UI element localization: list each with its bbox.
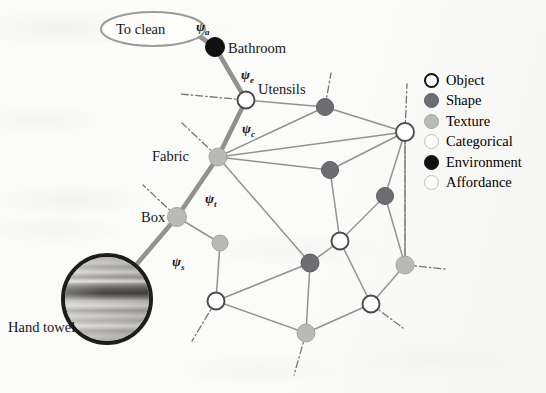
graph-node-s1: [317, 99, 334, 116]
texture-marker-icon: [424, 114, 439, 129]
graph-node-o1: [396, 123, 414, 141]
legend: ObjectShapeTextureCategoricalEnvironment…: [424, 70, 522, 193]
node-label-utensils: Utensils: [258, 82, 306, 97]
environment-marker-icon: [424, 155, 439, 170]
node-label-handtowel: Hand towel: [8, 320, 75, 335]
graph-node-o2: [332, 233, 349, 250]
graph-edge: [246, 100, 325, 107]
legend-label-object: Object: [446, 72, 485, 89]
legend-item-categorical: Categorical: [424, 132, 522, 153]
affordance-marker-icon: [424, 175, 439, 190]
path-label-psi_t: ψt: [205, 192, 217, 209]
graph-edge: [385, 196, 405, 265]
graph-node-bathroom: [206, 38, 225, 57]
legend-item-affordance: Affordance: [424, 173, 522, 194]
path-label-psi_e: ψe: [241, 68, 254, 85]
graph-node-utensils: [238, 92, 255, 109]
path-label-psi_a: ψa: [196, 20, 210, 37]
graph-node-box: [168, 208, 187, 227]
graph-node-t3: [297, 324, 315, 342]
dashdot-stub: [180, 94, 246, 100]
graph-edge: [340, 241, 371, 304]
graph-edge: [325, 107, 405, 132]
legend-label-affordance: Affordance: [446, 174, 512, 191]
graph-edge: [218, 157, 330, 170]
graph-edge: [218, 157, 310, 263]
graph-edge: [385, 132, 405, 196]
graph-node-o4: [363, 296, 380, 313]
node-label-bathroom: Bathroom: [228, 41, 286, 56]
legend-item-object: Object: [424, 70, 522, 91]
graph-node-fabric: [209, 148, 227, 166]
path-label-psi_c: ψc: [242, 122, 255, 139]
node-label-box: Box: [141, 210, 165, 225]
shape-marker-icon: [424, 93, 439, 108]
legend-item-shape: Shape: [424, 91, 522, 112]
path-label-psi_s: ψs: [172, 255, 185, 272]
legend-item-environment: Environment: [424, 152, 522, 173]
object-marker-icon: [424, 73, 439, 88]
categorical-marker-icon: [424, 134, 439, 149]
legend-label-categorical: Categorical: [446, 133, 513, 150]
graph-edge: [306, 263, 310, 333]
graph-edge: [216, 301, 306, 333]
graph-edge: [330, 170, 340, 241]
node-label-fabric: Fabric: [152, 149, 189, 164]
affordance-ellipse-label: To clean: [116, 22, 165, 37]
graph-node-s4: [301, 254, 319, 272]
graph-node-s2: [322, 162, 339, 179]
figure-canvas: To clean BathroomUtensilsFabricBoxHand t…: [0, 0, 546, 393]
towel-sheen: [65, 257, 149, 341]
legend-item-texture: Texture: [424, 111, 522, 132]
legend-label-shape: Shape: [446, 92, 481, 109]
graph-node-t1: [212, 235, 228, 251]
graph-node-s3: [377, 188, 394, 205]
graph-edge: [340, 196, 385, 241]
graph-node-o3: [208, 293, 225, 310]
graph-edge: [306, 304, 371, 333]
legend-label-environment: Environment: [446, 154, 522, 171]
graph-edge: [216, 263, 310, 301]
graph-node-t2: [396, 256, 414, 274]
legend-label-texture: Texture: [446, 113, 490, 130]
